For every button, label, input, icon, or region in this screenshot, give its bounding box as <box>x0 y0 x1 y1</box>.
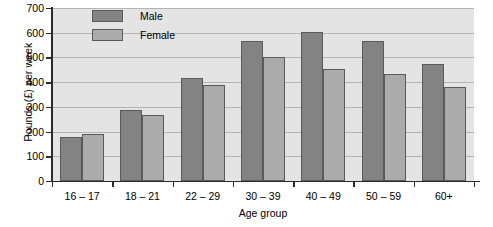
x-axis-tick-label: 60+ <box>414 190 474 202</box>
y-axis-tick <box>46 107 52 108</box>
x-axis-tick-label: 18 – 21 <box>112 190 172 202</box>
y-axis-tick-label: 500 <box>0 52 44 63</box>
y-axis-tick-label: 100 <box>0 151 44 162</box>
bar-male <box>362 41 384 181</box>
x-axis-tick <box>353 181 354 187</box>
bar-female <box>142 115 164 181</box>
x-axis-tick <box>233 181 234 187</box>
x-axis-tick <box>173 181 174 187</box>
y-axis-tick <box>46 132 52 133</box>
bar-male <box>120 110 142 181</box>
y-axis-tick-label: 700 <box>0 3 44 14</box>
y-axis-tick <box>46 156 52 157</box>
x-axis-tick-label: 40 – 49 <box>293 190 353 202</box>
bar-male <box>181 78 203 181</box>
legend-label-female: Female <box>140 30 175 41</box>
y-axis-tick-label: 300 <box>0 102 44 113</box>
bar-chart: Pounds (£) per week 01002003004005006007… <box>0 0 493 227</box>
bar-female <box>444 87 466 181</box>
x-axis-tick <box>112 181 113 187</box>
bar-female <box>384 74 406 181</box>
x-axis-tick-label: 50 – 59 <box>353 190 413 202</box>
x-axis-tick-label: 22 – 29 <box>173 190 233 202</box>
y-axis-tick-label: 400 <box>0 77 44 88</box>
bar-female <box>323 69 345 181</box>
x-axis-tick <box>52 181 53 187</box>
bar-male <box>241 41 263 181</box>
y-axis-tick-label: 600 <box>0 28 44 39</box>
gridline <box>52 8 474 9</box>
bar-female <box>263 57 285 181</box>
legend-label-male: Male <box>140 11 163 22</box>
legend-swatch-female-icon <box>92 29 123 41</box>
x-axis-tick-label: 30 – 39 <box>233 190 293 202</box>
x-axis-tick <box>293 181 294 187</box>
y-axis-tick <box>46 8 52 9</box>
legend-item-female: Female <box>92 29 175 41</box>
legend-item-male: Male <box>92 10 163 22</box>
y-axis-tick-label: 200 <box>0 127 44 138</box>
y-axis-tick <box>46 33 52 34</box>
x-axis-tick <box>414 181 415 187</box>
x-axis-tick <box>474 181 475 187</box>
y-axis-tick <box>46 82 52 83</box>
y-axis-tick <box>46 57 52 58</box>
bar-female <box>82 134 104 181</box>
legend-swatch-male-icon <box>92 10 123 22</box>
bar-male <box>60 137 82 181</box>
y-axis-tick-label: 0 <box>0 176 44 187</box>
bar-female <box>203 85 225 181</box>
x-axis-tick-label: 16 – 17 <box>52 190 112 202</box>
plot-area: Male Female <box>52 8 474 181</box>
x-axis-title: Age group <box>52 207 474 219</box>
bar-male <box>301 32 323 181</box>
bar-male <box>422 64 444 181</box>
